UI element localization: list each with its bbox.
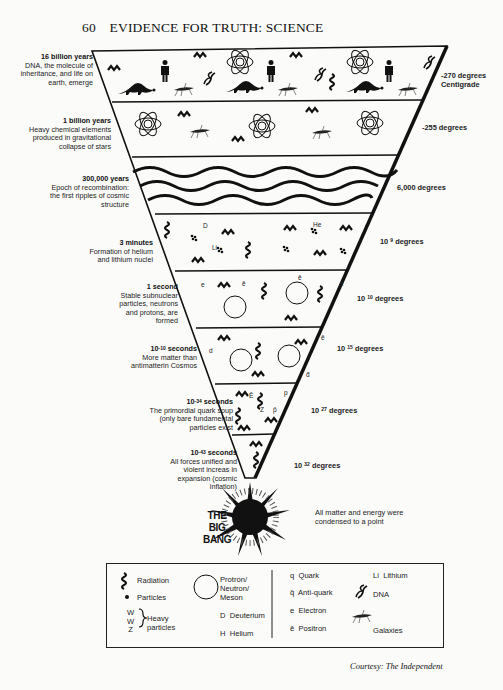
epoch-label-3-minutes: 3 minutesFormation of helium and lithium… [81,239,153,265]
legend-lithium: Li Lithium [373,571,408,580]
legend-anti-quark: q̄ Anti-quark [290,588,333,597]
legend-particles: Particles [137,593,166,602]
legend-heavy-symbols: WWZ [127,609,134,635]
legend-deuterium: D Deuterium [220,611,265,620]
temperature-band-1: -270 degrees Centigrade [441,71,501,89]
big-bang-label: THEBIGBANG [203,510,231,546]
legend-galaxies: Galaxies [373,626,403,635]
temperature-band-7: 10 27 degrees [311,406,357,415]
symbol-electron: e [201,280,205,289]
legend-helium: H Helium [220,629,253,638]
legend-radiation: Radiation [137,576,169,585]
legend-dna: DNA [373,590,389,599]
image-credit: Courtesy: The Independent [350,661,443,671]
epoch-label-1-billion-years: 1 billion yearsHeavy chemical elements p… [23,117,111,151]
symbol-anti-p: p̄ [273,405,277,414]
epoch-label-16-billion-years: 16 billion yearsDNA, the molecule of inh… [3,53,93,87]
epoch-label-10e-34-seconds: 10-34 secondsThe primordial quark soup (… [149,398,233,432]
epoch-label-1-second: 1 secondStable subnuclear particles, neu… [114,283,178,326]
legend-quark: q Quark [290,571,319,580]
legend-proton-neutron-meson: Protron/Neutron/Meson [220,575,249,602]
temperature-band-3: 6,000 degrees [397,183,446,192]
temperature-band-8: 10 32 degrees [294,461,340,470]
symbol-electron-2: e [340,279,344,288]
symbol-d: d [209,346,213,355]
symbol-positron: ē [242,279,246,288]
symbol-lithium: Li [212,243,217,252]
legend-heavy-particles: Heavyparticles [147,614,175,632]
temperature-band-5: 10 10 degrees [357,294,403,303]
big-bang-note: All matter and energy were condensed to … [315,508,410,526]
epoch-label-10e-10-seconds: 10-10 secondsMore matter than antimatter… [117,345,197,371]
symbol-positron-2: ē [298,273,302,282]
legend-electron: e Electron [290,606,326,615]
symbol-helium: He [313,220,321,229]
symbol-p: p [284,388,288,397]
temperature-band-6: 10 15 degrees [337,344,383,353]
epoch-label-10e-43-seconds: 10-43 secondsAll forces unified and viol… [149,449,237,492]
symbol-z: Z [260,405,264,414]
symbol-deuterium: D [203,221,208,230]
epoch-label-300000-years: 300,000 yearsEpoch of recombination: the… [49,175,129,209]
temperature-band-4: 10 9 degrees [380,237,424,246]
symbol-anti-d: d̄ [306,370,310,379]
legend-positron: ē Positron [290,624,326,633]
symbol-e-bar: ē [321,333,325,342]
symbol-e-bar-heavy: Ē [249,391,253,400]
temperature-band-2: -255 degrees [422,123,467,132]
